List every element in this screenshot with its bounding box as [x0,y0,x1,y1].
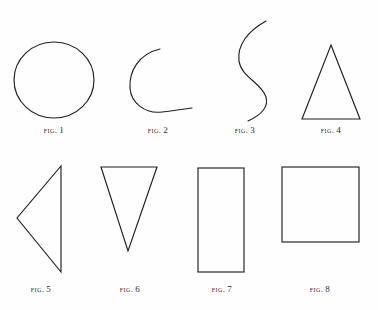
fig-7-caption-number: 7 [225,284,232,294]
fig-1-caption-number: 1 [57,125,64,135]
fig-4-caption-number: 4 [334,125,341,135]
fig-6-triangle-down-shape [101,167,157,251]
fig-4-caption: Fig.4 [321,125,341,136]
fig-2-caption-word: Fig. [148,125,162,135]
fig-5-caption-word: Fig. [31,284,45,294]
fig-5-triangle-left-shape [17,166,61,272]
fig-2-arc-shape [130,49,192,112]
fig-8-caption: Fig.8 [310,284,330,295]
fig-7-rectangle-shape [198,168,244,272]
fig-1-caption-word: Fig. [44,125,58,135]
fig-7-caption: Fig.7 [212,284,232,295]
fig-3-caption: Fig.3 [235,125,255,136]
fig-6-caption-word: Fig. [120,284,134,294]
fig-3-s-curve-shape [239,21,267,121]
fig-2-caption: Fig.2 [148,125,168,136]
fig-7-caption-word: Fig. [212,284,226,294]
figure-plate: Fig.1 Fig.2 Fig.3 Fig.4 Fig.5 Fig.6 Fig.… [0,0,378,310]
fig-4-triangle-up-shape [302,45,360,119]
fig-3-caption-number: 3 [248,125,255,135]
fig-6-caption: Fig.6 [120,284,140,295]
figures-canvas [0,0,378,310]
fig-1-circle-shape [14,42,94,118]
fig-8-caption-word: Fig. [310,284,324,294]
fig-2-caption-number: 2 [161,125,168,135]
fig-8-square-shape [282,167,359,242]
fig-6-caption-number: 6 [133,284,140,294]
fig-8-caption-number: 8 [323,284,330,294]
fig-5-caption: Fig.5 [31,284,51,295]
fig-1-caption: Fig.1 [44,125,64,136]
fig-3-caption-word: Fig. [235,125,249,135]
fig-5-caption-number: 5 [44,284,51,294]
fig-4-caption-word: Fig. [321,125,335,135]
